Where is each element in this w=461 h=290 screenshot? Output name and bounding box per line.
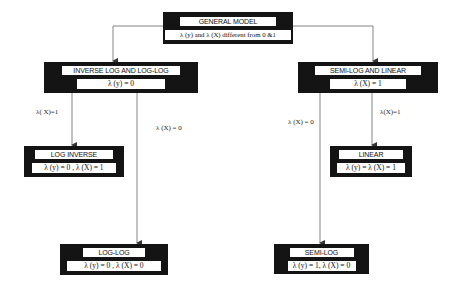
node-title: LOG INVERSE — [35, 150, 113, 159]
node-condition: λ (y) = 0 , λ (X) = 1 — [32, 163, 116, 173]
node-general-model: GENERAL MODEL λ (y) and λ (X) different … — [163, 12, 293, 44]
node-semi-log: SEMI-LOG λ (y) = 1, λ (X) = 0 — [274, 244, 369, 274]
node-log-inverse: LOG INVERSE λ (y) = 0 , λ (X) = 1 — [24, 146, 124, 177]
edge-label-to-log-inverse: λ( X)=1 — [36, 108, 58, 116]
node-condition: λ (y) and λ (X) different from 0 &1 — [165, 30, 291, 40]
node-log-log: LOG-LOG λ (y) = 0 , λ (X) = 0 — [60, 244, 168, 275]
edge-label-to-semi-log: λ (X) = 0 — [288, 118, 314, 126]
node-title: LINEAR — [339, 150, 403, 159]
node-title: SEMI-LOG — [290, 248, 354, 257]
node-title: INVERSE LOG AND LOG-LOG — [62, 66, 180, 75]
node-inverse-log-and-log-log: INVERSE LOG AND LOG-LOG λ (y) = 0 — [44, 62, 198, 93]
node-semi-log-and-linear: SEMI-LOG AND LINEAR λ (X) = 1 — [298, 62, 438, 93]
node-linear: LINEAR λ (y) = λ (X) = 1 — [330, 146, 412, 177]
node-condition: λ (X) = 1 — [330, 79, 406, 89]
edge-label-to-linear: λ(X)=1 — [380, 108, 401, 116]
edge-label-to-log-log: λ (X) = 0 — [156, 124, 182, 132]
node-condition: λ (y) = λ (X) = 1 — [337, 163, 405, 173]
node-condition: λ (y) = 0 , λ (X) = 0 — [67, 261, 161, 271]
node-title: LOG-LOG — [83, 248, 145, 257]
node-condition: λ (y) = 0 — [77, 79, 165, 89]
node-title: SEMI-LOG AND LINEAR — [315, 66, 421, 75]
node-title: GENERAL MODEL — [180, 17, 276, 26]
node-condition: λ (y) = 1, λ (X) = 0 — [288, 261, 356, 271]
